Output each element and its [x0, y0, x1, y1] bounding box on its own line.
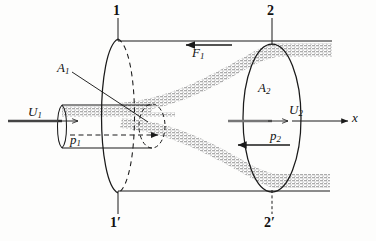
- pressure-1-label: p1: [70, 132, 81, 148]
- station-2-bottom-label: 2′: [264, 215, 275, 231]
- force-label: F1: [192, 45, 204, 61]
- area-2-label: A2: [258, 80, 270, 96]
- control-surface-2-ellipse: [243, 44, 301, 192]
- station-1-top-label: 1: [113, 3, 120, 19]
- x-axis-label: x: [352, 110, 358, 126]
- duct-control-volume-figure: [0, 0, 376, 241]
- velocity-2-label: U2: [289, 102, 303, 118]
- velocity-1-label: U1: [28, 104, 42, 120]
- pressure-2-label: p2: [270, 128, 281, 144]
- station-1-bottom-label: 1′: [110, 215, 121, 231]
- area-1-label: A1: [57, 60, 69, 76]
- station-2-top-label: 2: [267, 3, 274, 19]
